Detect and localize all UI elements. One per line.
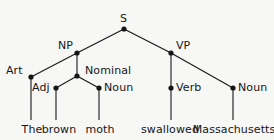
sentence-word-swallowed: swallowed (141, 124, 199, 135)
tree-node-label-art: Art (6, 65, 23, 76)
tree-node-dot-np (74, 50, 79, 55)
tree-node-label-np: NP (58, 40, 73, 51)
sentence-word-massachusetts: Massachusetts (193, 124, 274, 135)
sentence-word-moth: moth (85, 124, 114, 135)
tree-node-label-s: S (120, 13, 127, 24)
tree-edge-nominal-to-noun1 (77, 76, 99, 88)
tree-node-dot-vp (168, 50, 173, 55)
tree-diagram-canvas (0, 0, 274, 140)
sentence-word-brown: brown (42, 124, 76, 135)
tree-node-dot-art (28, 74, 33, 79)
tree-node-label-nominal: Nominal (85, 65, 131, 76)
tree-node-dot-noun2 (230, 85, 235, 90)
tree-edge-s-to-vp (124, 29, 171, 53)
tree-node-label-noun2: Noun (238, 82, 267, 93)
tree-node-dot-adj (53, 85, 58, 90)
tree-edge-np-to-art (31, 53, 77, 77)
tree-node-dot-noun1 (96, 85, 101, 90)
tree-node-label-verb: Verb (176, 82, 201, 93)
syntax-tree-figure: SNPVPArtNominalAdjNounVerbNoun Thebrownm… (0, 0, 274, 140)
tree-node-dot-verb (168, 85, 173, 90)
tree-node-dot-nominal (74, 73, 79, 78)
tree-node-label-adj: Adj (32, 82, 50, 93)
tree-node-dot-s (121, 26, 126, 31)
tree-node-label-noun1: Noun (104, 82, 133, 93)
tree-edge-nominal-to-adj (56, 76, 77, 88)
tree-edge-s-to-np (77, 29, 124, 53)
tree-node-label-vp: VP (176, 40, 190, 51)
sentence-word-the: The (22, 124, 43, 135)
